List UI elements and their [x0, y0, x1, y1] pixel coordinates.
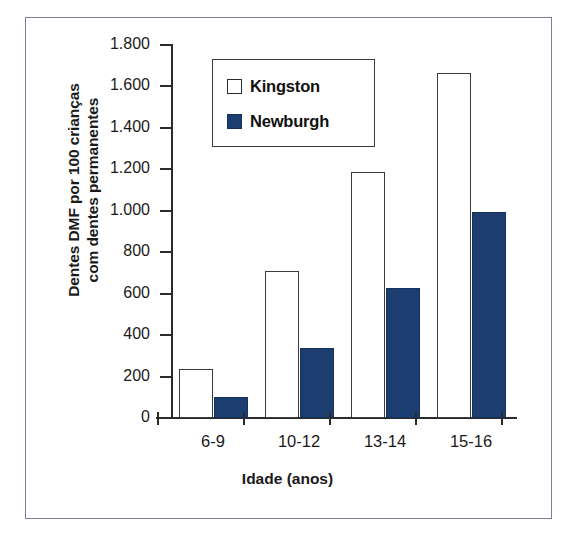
y-tick — [160, 293, 173, 295]
y-tick — [160, 168, 173, 170]
y-tick-label: 800 — [82, 242, 150, 260]
x-tick-label: 6-9 — [168, 432, 258, 451]
y-tick — [160, 210, 173, 212]
y-tick-label: 1.000 — [82, 201, 150, 219]
y-tick — [160, 85, 173, 87]
y-tick — [160, 334, 173, 336]
y-axis-tick-labels: 02004006008001.0001.2001.4001.6001.800 — [82, 0, 150, 536]
bar-newburgh-13-14 — [386, 288, 420, 418]
y-tick-label: 1.200 — [82, 159, 150, 177]
chart-legend: Kingston Newburgh — [212, 59, 375, 147]
y-tick-label: 400 — [82, 325, 150, 343]
legend-item-kingston: Kingston — [227, 69, 374, 104]
y-tick — [160, 127, 173, 129]
y-tick-label: 1.800 — [82, 35, 150, 53]
x-tick — [501, 412, 503, 425]
y-tick — [160, 417, 173, 419]
y-tick-label: 0 — [82, 408, 150, 426]
bar-kingston-6-9 — [179, 369, 213, 418]
bar-kingston-10-12 — [265, 271, 299, 418]
x-tick — [329, 412, 331, 425]
y-axis-title-line1: Dentes DMF por 100 crianças — [64, 83, 83, 297]
y-tick — [160, 44, 173, 46]
legend-swatch-kingston-icon — [227, 79, 242, 94]
legend-item-newburgh: Newburgh — [227, 104, 374, 139]
y-tick-label: 600 — [82, 284, 150, 302]
y-tick-label: 200 — [82, 367, 150, 385]
y-tick-label: 1.600 — [82, 76, 150, 94]
chart-figure: Dentes DMF por 100 crianças com dentes p… — [0, 0, 575, 536]
y-axis-line — [171, 45, 173, 419]
y-tick — [160, 376, 173, 378]
x-tick-label: 13-14 — [340, 432, 430, 451]
x-tick — [157, 412, 159, 425]
legend-swatch-newburgh-icon — [227, 114, 242, 129]
bar-kingston-13-14 — [351, 172, 385, 418]
y-tick — [160, 251, 173, 253]
x-axis-title: Idade (anos) — [0, 470, 575, 488]
legend-label-newburgh: Newburgh — [250, 112, 329, 131]
x-tick — [415, 412, 417, 425]
bar-newburgh-10-12 — [300, 348, 334, 418]
x-tick — [243, 412, 245, 425]
x-tick-label: 15-16 — [426, 432, 516, 451]
bar-kingston-15-16 — [437, 73, 471, 418]
legend-label-kingston: Kingston — [250, 77, 320, 96]
bar-newburgh-15-16 — [472, 212, 506, 418]
x-tick-label: 10-12 — [254, 432, 344, 451]
y-tick-label: 1.400 — [82, 118, 150, 136]
